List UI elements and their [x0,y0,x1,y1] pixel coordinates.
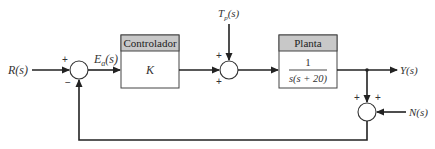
input-signal-label: R(s) [7,63,28,77]
noise-sum-plus-left: + [354,92,360,103]
noise-sum-plus-right: + [375,92,381,103]
plant-numerator: 1 [305,56,311,68]
plant-block: Planta 1 s(s + 20) [279,35,337,88]
error-summing-junction [70,61,88,79]
error-sum-plus-sign: + [62,54,68,65]
feedback-path [79,80,367,140]
plant-denominator: s(s + 20) [289,73,328,85]
controller-gain: K [145,63,155,77]
noise-signal-label: N(s) [408,106,428,119]
controller-header: Controlador [123,37,176,49]
output-signal-label: Y(s) [400,64,418,77]
disturbance-sum-plus-top: + [216,50,222,61]
disturbance-summing-junction [220,61,238,79]
error-signal-label: Ea(s) [93,52,118,68]
noise-summing-junction [358,103,376,121]
error-sum-minus-sign: − [65,77,71,88]
controller-block: Controlador K [121,35,179,88]
disturbance-signal-label: Tp(s) [218,7,240,22]
block-diagram: R(s) + − Ea(s) Controlador K Tp(s) + + P… [0,0,435,149]
plant-header: Planta [294,37,322,49]
disturbance-sum-plus-bottom: + [216,76,222,87]
